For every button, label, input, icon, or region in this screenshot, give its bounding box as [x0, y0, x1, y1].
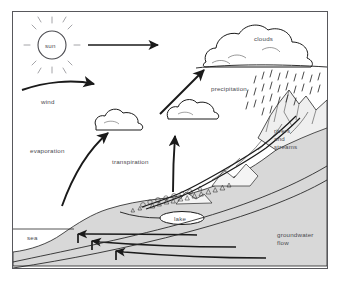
- label-lake: lake: [174, 215, 186, 223]
- label-transpiration: transpiration: [112, 158, 149, 166]
- arrow-curved-up-icon: [62, 133, 108, 206]
- label-evaporation: evaporation: [30, 147, 65, 155]
- cloud-icon: [167, 100, 218, 119]
- cloud-icon: [203, 25, 312, 67]
- label-sun: sun: [45, 42, 56, 50]
- label-clouds: clouds: [254, 35, 273, 43]
- cloud-icon: [95, 109, 143, 130]
- label-rivers-and-streams: rivers and streams: [274, 127, 297, 151]
- arrow-curved-right-icon: [22, 82, 94, 90]
- label-precipitation: precipitation: [211, 85, 247, 93]
- arrow-up-icon: [173, 136, 175, 192]
- label-sea: sea: [27, 234, 38, 242]
- label-groundwater-flow: groundwater flow: [277, 231, 314, 247]
- water-cycle-diagram-page: sun wind clouds precipitation evaporatio…: [0, 0, 340, 283]
- label-wind: wind: [41, 98, 55, 106]
